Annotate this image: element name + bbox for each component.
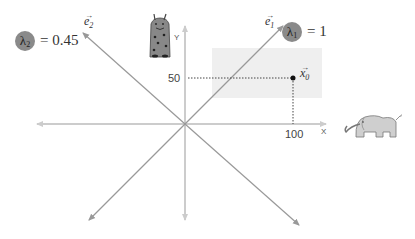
lambda-2-badge: λ2 [15, 31, 35, 51]
e1-sub: 1 [270, 21, 274, 30]
lambda-2-sub: 2 [26, 40, 30, 49]
x0-vector-arrow: → [301, 63, 309, 72]
e1-vector-arrow: → [266, 11, 274, 20]
y-tick-50: 50 [168, 72, 180, 84]
y-axis-label: Y [174, 33, 179, 42]
e2-vector-arrow: → [85, 11, 93, 20]
x0-sub: 0 [305, 73, 309, 82]
lambda-1-equation: = 1 [307, 23, 327, 40]
lambda-2-equation: = 0.45 [40, 32, 78, 49]
x-tick-100: 100 [285, 128, 303, 140]
lambda-1-badge: λ1 [282, 22, 302, 42]
lambda-1-sub: 1 [293, 31, 297, 40]
point-x0 [291, 76, 296, 81]
giraffe-doodle-icon [150, 14, 170, 58]
elephant-doodle-icon [345, 114, 402, 137]
e2-sub: 2 [89, 21, 93, 30]
x-axis-label: X [321, 127, 326, 136]
